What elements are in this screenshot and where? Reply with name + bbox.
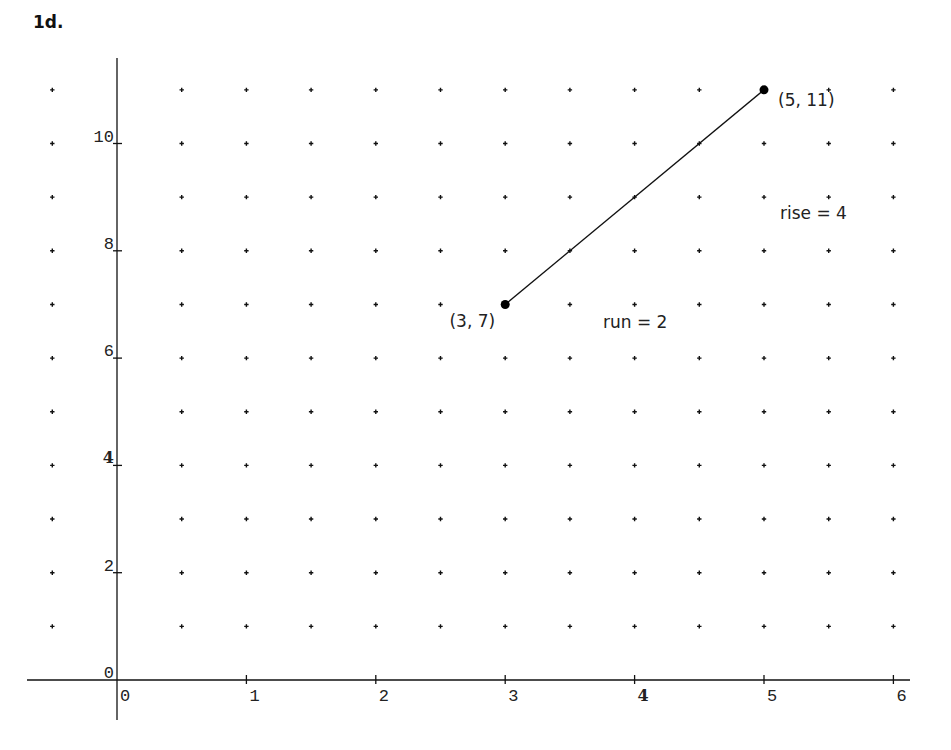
grid-dot [50,356,54,360]
grid-dot [697,195,701,199]
grid-dot [632,302,636,306]
grid-dot [309,571,313,575]
grid-dot [309,624,313,628]
grid-dot [180,517,184,521]
grid-dot [50,517,54,521]
grid-dot [244,624,248,628]
grid-dot [697,356,701,360]
grid-dot [891,410,895,414]
rise-annotation: rise = 4 [780,203,847,223]
grid-dot [180,356,184,360]
grid-dot [50,88,54,92]
grid-dot [503,195,507,199]
grid-dot [438,624,442,628]
grid-dot [438,410,442,414]
grid-dot [50,195,54,199]
grid-dot [697,463,701,467]
grid-dot [503,356,507,360]
grid-dot [309,249,313,253]
grid-dot [697,410,701,414]
y-tick-label: 10 [94,128,114,147]
grid-dot [762,571,766,575]
grid-dot [180,302,184,306]
grid-dot [309,410,313,414]
grid-dot [309,302,313,306]
grid-dot [827,463,831,467]
grid-dot [891,356,895,360]
grid-dot [438,195,442,199]
y-tick-label: 0 [104,664,114,683]
y-tick-label: 2 [104,557,114,576]
grid-dot [244,571,248,575]
grid-dot [180,624,184,628]
grid-dot [438,88,442,92]
grid-dot [374,517,378,521]
x-tick-label: 0 [120,687,130,706]
grid-dot [244,356,248,360]
grid-dot [438,463,442,467]
grid-dot [438,356,442,360]
grid-dot [309,517,313,521]
x-tick-label: 1 [249,687,259,706]
grid-dot [632,410,636,414]
grid-dot [827,571,831,575]
grid-dot [309,141,313,145]
grid-dot [374,463,378,467]
grid-dot [503,249,507,253]
grid-dot [374,571,378,575]
grid-dot [503,463,507,467]
grid-dot [568,517,572,521]
grid-dot [827,410,831,414]
grid-dot [180,410,184,414]
grid-dot [374,302,378,306]
grid-dot [697,249,701,253]
point-label-b: (5, 11) [778,90,835,110]
grid-dot [503,624,507,628]
grid-dot [50,302,54,306]
grid-dot [697,302,701,306]
grid-dot [632,249,636,253]
grid-dot [309,463,313,467]
annotations: rise = 4run = 2 [603,203,847,332]
data-point [501,300,510,309]
grid-dot [632,517,636,521]
grid-dot [891,624,895,628]
grid-dot [827,249,831,253]
grid-dot [503,410,507,414]
grid-dots [50,88,896,629]
grid-dot [180,571,184,575]
grid-dot [632,356,636,360]
grid-dot [568,88,572,92]
x-tick-label: 2 [379,687,389,706]
grid-dot [827,195,831,199]
grid-dot [503,141,507,145]
grid-dot [891,249,895,253]
grid-dot [762,624,766,628]
x-tick-label: 6 [896,687,906,706]
grid-dot [891,195,895,199]
axes [27,58,910,720]
coordinate-plot: 01234560246810 (3, 7)(5, 11) rise = 4run… [0,0,951,750]
grid-dot [568,571,572,575]
grid-dot [374,249,378,253]
grid-dot [244,141,248,145]
grid-dot [762,463,766,467]
grid-dot [244,517,248,521]
grid-dot [568,410,572,414]
grid-dot [50,249,54,253]
data-series: (3, 7)(5, 11) [449,85,834,331]
grid-dot [891,302,895,306]
grid-dot [827,624,831,628]
grid-dot [503,571,507,575]
grid-dot [762,517,766,521]
grid-dot [568,302,572,306]
grid-dot [309,195,313,199]
grid-dot [632,141,636,145]
grid-dot [438,302,442,306]
grid-dot [891,88,895,92]
grid-dot [374,88,378,92]
grid-dot [762,356,766,360]
x-tick-label: 5 [767,687,777,706]
grid-dot [180,195,184,199]
grid-dot [697,88,701,92]
